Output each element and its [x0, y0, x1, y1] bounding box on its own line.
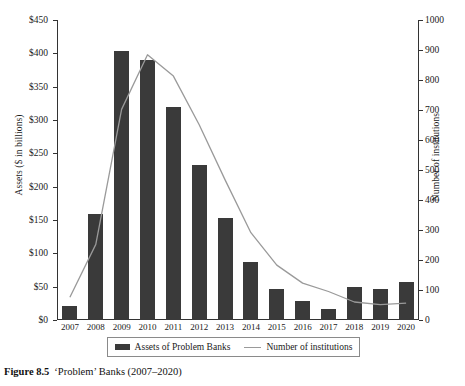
legend-entry-line: Number of institutions — [244, 342, 352, 352]
y-axis-right-tick-mark — [419, 200, 423, 201]
bar-2013 — [218, 218, 233, 320]
y-axis-right-tick-label: 200 — [425, 255, 465, 265]
y-axis-left-tick-label: $200 — [8, 182, 48, 192]
bar-2012 — [192, 165, 207, 320]
y-axis-left-tick-label: $300 — [8, 115, 48, 125]
bar-2011 — [166, 107, 181, 320]
legend-bars-label: Assets of Problem Banks — [135, 342, 231, 352]
chart-legend: Assets of Problem Banks Number of instit… — [107, 337, 360, 357]
y-axis-right-tick-label: 300 — [425, 225, 465, 235]
bar-2017 — [321, 309, 336, 320]
y-axis-left-tick-label: $100 — [8, 248, 48, 258]
y-axis-left-tick-label: $50 — [8, 282, 48, 292]
y-axis-right-tick-label: 900 — [425, 45, 465, 55]
y-axis-right-tick-mark — [419, 320, 423, 321]
y-axis-right-tick-label: 700 — [425, 105, 465, 115]
legend-line-label: Number of institutions — [266, 342, 352, 352]
bar-2018 — [347, 287, 362, 320]
y-axis-left-tick-label: $450 — [8, 15, 48, 25]
y-axis-right-tick-mark — [419, 110, 423, 111]
y-axis-right-tick-label: 800 — [425, 75, 465, 85]
y-axis-right-tick-label: 100 — [425, 285, 465, 295]
y-axis-right-tick-mark — [419, 20, 423, 21]
y-axis-right-tick-mark — [419, 170, 423, 171]
y-axis-left-tick-label: $0 — [8, 315, 48, 325]
y-axis-right-tick-mark — [419, 290, 423, 291]
y-axis-right-tick-label: 400 — [425, 195, 465, 205]
bar-2008 — [88, 214, 103, 320]
bar-2020 — [399, 282, 414, 320]
y-axis-left-tick-label: $250 — [8, 148, 48, 158]
bar-2015 — [269, 289, 284, 320]
y-axis-right-tick-mark — [419, 50, 423, 51]
legend-line-swatch-icon — [244, 347, 261, 348]
x-axis-tick-label: 2020 — [391, 322, 421, 332]
y-axis-left-tick-label: $350 — [8, 82, 48, 92]
bar-series-layer — [57, 20, 419, 320]
caption-text: ‘Problem’ Banks (2007–2020) — [54, 366, 182, 377]
bar-2010 — [140, 60, 155, 320]
y-axis-left-tick-label: $150 — [8, 215, 48, 225]
y-axis-left-tick-label: $400 — [8, 48, 48, 58]
bar-2009 — [114, 51, 129, 320]
figure-caption: Figure 8.5‘Problem’ Banks (2007–2020) — [4, 366, 182, 377]
y-axis-right-tick-mark — [419, 140, 423, 141]
bar-2016 — [295, 301, 310, 320]
legend-entry-bars: Assets of Problem Banks — [115, 342, 231, 352]
bar-2019 — [373, 289, 388, 320]
y-axis-right-title: Number of institutions — [431, 77, 441, 237]
y-axis-right-tick-label: 1000 — [425, 15, 465, 25]
y-axis-left-tick-mark — [53, 320, 57, 321]
y-axis-right-tick-mark — [419, 80, 423, 81]
chart-plot-area: Assets ($ in billions) Number of institu… — [0, 0, 465, 348]
bar-2007 — [62, 306, 77, 320]
y-axis-right-tick-label: 500 — [425, 165, 465, 175]
y-axis-right-tick-mark — [419, 230, 423, 231]
legend-bar-swatch-icon — [115, 344, 130, 350]
figure-container: Assets ($ in billions) Number of institu… — [0, 0, 465, 386]
y-axis-right-tick-mark — [419, 260, 423, 261]
bar-2014 — [243, 262, 258, 320]
caption-figure-number: Figure 8.5 — [4, 366, 49, 377]
y-axis-right-tick-label: 0 — [425, 315, 465, 325]
y-axis-right-tick-label: 600 — [425, 135, 465, 145]
